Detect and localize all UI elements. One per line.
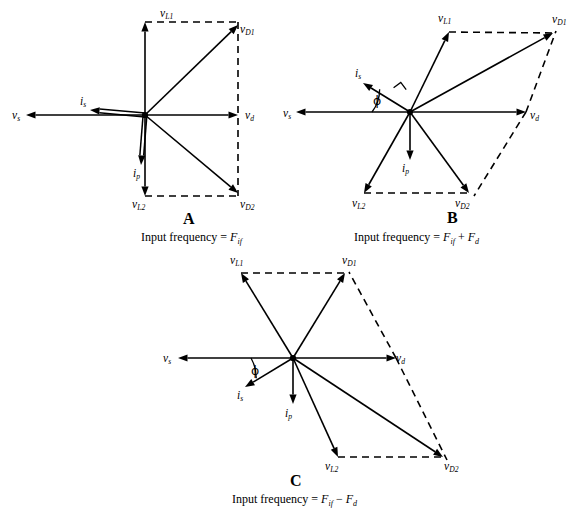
panel-A-vector-ip-shaft-a xyxy=(140,115,143,156)
panel-letter-A: A xyxy=(183,211,195,227)
panel-B-dashed-0 xyxy=(449,32,553,33)
panel-A-vector-vD1-shaft xyxy=(145,32,231,115)
panel-B-vector-vL1-arrowhead xyxy=(442,32,449,42)
label-B-phi: ϕ xyxy=(373,95,381,108)
label-B-vL2: vL2 xyxy=(352,198,365,210)
panel-B-right-angle xyxy=(394,82,407,95)
label-B-vd: vd xyxy=(530,110,539,122)
panel-B-group xyxy=(296,31,556,196)
label-B-ip: ip xyxy=(402,163,409,175)
panel-letter-C: C xyxy=(290,473,302,489)
phasor-diagram-canvas xyxy=(0,0,588,513)
panel-letter-B: B xyxy=(447,210,458,226)
label-C-vD2: vD2 xyxy=(444,461,459,473)
panel-A-vector-is-arrowhead xyxy=(90,107,100,114)
panel-caption-B: Input frequency = Fif + Fd xyxy=(354,231,479,243)
panel-A-vector-is-shaft-a xyxy=(100,109,146,113)
label-C-vD1: vD1 xyxy=(342,255,357,267)
panel-A-vector-vD2-shaft xyxy=(145,115,231,187)
label-A-vL1: vL1 xyxy=(160,8,173,20)
panel-B-vector-vD2-shaft xyxy=(410,112,463,185)
label-C-vL2: vL2 xyxy=(325,461,338,473)
panel-C-vector-vD1-shaft xyxy=(293,281,340,358)
label-A-vD1: vD1 xyxy=(240,24,255,36)
panel-C-group xyxy=(178,272,447,460)
panel-B-vector-vD1-arrowhead xyxy=(543,33,553,41)
panel-B-vector-vs-arrowhead xyxy=(296,108,306,115)
panel-C-vector-ip-arrowhead xyxy=(289,395,296,405)
panel-B-dashed-2 xyxy=(526,31,556,112)
panel-A-vector-vd-arrowhead xyxy=(229,111,239,118)
panel-C-vector-is-arrowhead xyxy=(245,379,255,387)
label-C-vL1: vL1 xyxy=(230,255,243,267)
panel-B-dashed-3 xyxy=(474,112,526,196)
panel-C-vector-vL1-shaft xyxy=(246,281,293,358)
label-C-vs: vs xyxy=(163,353,171,365)
panel-B-vector-vL1-shaft xyxy=(410,41,445,112)
panel-C-vector-vD1-arrowhead xyxy=(337,273,345,283)
label-A-vL2: vL2 xyxy=(132,199,145,211)
panel-C-vector-vs-arrowhead xyxy=(178,354,188,361)
panel-C-origin xyxy=(290,355,296,361)
figure-root: vL1vL2vD1vD2vdvsisipAInput frequency = F… xyxy=(0,0,588,513)
label-B-vD2: vD2 xyxy=(455,198,470,210)
label-A-vs: vs xyxy=(12,110,20,122)
panel-B-vector-is-arrowhead xyxy=(363,83,373,91)
label-B-is: is xyxy=(355,68,361,80)
panel-B-vector-vL2-arrowhead xyxy=(364,183,372,193)
label-C-vd: vd xyxy=(396,353,405,365)
panel-A-vector-vs-arrowhead xyxy=(26,111,36,118)
label-C-is: is xyxy=(237,390,243,402)
panel-B-vector-vD2-arrowhead xyxy=(460,183,469,193)
label-C-ip: ip xyxy=(285,408,292,420)
panel-B-origin xyxy=(407,109,413,115)
panel-C-vector-vL2-arrowhead xyxy=(331,447,338,457)
label-A-vD2: vD2 xyxy=(240,199,255,211)
panel-A-vector-vL2-arrowhead xyxy=(141,187,148,197)
panel-caption-A: Input frequency = Fif xyxy=(141,231,242,243)
panel-C-vector-vL1-arrowhead xyxy=(241,273,249,283)
panel-caption-C: Input frequency = Fif − Fd xyxy=(232,493,357,505)
panel-B-vector-ip-arrowhead xyxy=(406,151,413,161)
panel-A-vector-vL1-arrowhead xyxy=(141,22,148,32)
label-B-vD1: vD1 xyxy=(552,14,567,26)
label-B-vL1: vL1 xyxy=(438,13,451,25)
panel-C-dashed-2 xyxy=(349,272,396,358)
label-C-phi: ϕ xyxy=(251,365,259,378)
panel-A-origin xyxy=(142,112,148,118)
panel-C-dashed-3 xyxy=(396,358,447,460)
label-A-ip: ip xyxy=(133,168,140,180)
label-B-vs: vs xyxy=(283,108,291,120)
label-A-is: is xyxy=(80,96,86,108)
panel-B-vector-vD1-shaft xyxy=(410,38,545,112)
label-A-vd: vd xyxy=(245,110,254,122)
panel-A-group xyxy=(26,22,238,196)
